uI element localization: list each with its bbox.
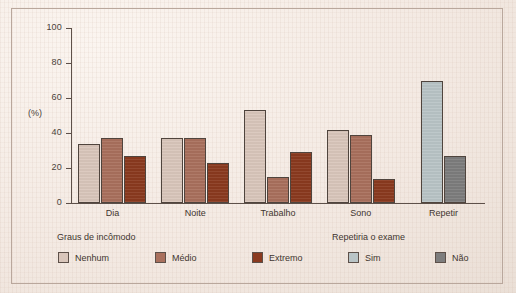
legend-swatch-extremo xyxy=(252,252,263,263)
bar-noite-médio xyxy=(184,138,206,203)
category-label-trabalho: Trabalho xyxy=(260,208,295,218)
bar-sono-médio xyxy=(350,135,372,203)
legend-label: Não xyxy=(452,253,469,263)
legend-graus-item-nenhum[interactable]: Nenhum xyxy=(58,252,109,263)
legend-left-title: Graus de incômodo xyxy=(57,232,136,242)
bar-dia-nenhum xyxy=(78,144,100,204)
bar-trabalho-médio xyxy=(267,177,289,203)
legend-label: Nenhum xyxy=(75,253,109,263)
category-label-dia: Dia xyxy=(106,208,120,218)
category-label-repetir: Repetir xyxy=(429,208,458,218)
legend-repetiria-item-não[interactable]: Não xyxy=(435,252,469,263)
chart-figure: (%) 100806040200 DiaNoiteTrabalhoSonoRep… xyxy=(0,0,516,293)
legend-swatch-não xyxy=(435,252,446,263)
bar-repetir-não xyxy=(444,156,466,203)
y-tick-mark xyxy=(66,168,71,169)
y-tick-mark xyxy=(66,63,71,64)
bar-trabalho-extremo xyxy=(290,152,312,203)
bar-noite-nenhum xyxy=(161,138,183,203)
legend-swatch-sim xyxy=(348,252,359,263)
legend-graus-item-extremo[interactable]: Extremo xyxy=(252,252,303,263)
bar-dia-extremo xyxy=(124,156,146,203)
legend-swatch-nenhum xyxy=(58,252,69,263)
legend-label: Extremo xyxy=(269,253,303,263)
bar-repetir-sim xyxy=(421,81,443,204)
legend-repetiria-item-sim[interactable]: Sim xyxy=(348,252,381,263)
bar-dia-médio xyxy=(101,138,123,203)
legend-graus-item-médio[interactable]: Médio xyxy=(155,252,197,263)
legend-label: Sim xyxy=(365,253,381,263)
y-tick-mark xyxy=(66,133,71,134)
y-tick-label: 0 xyxy=(40,197,62,207)
y-tick-mark xyxy=(66,28,71,29)
category-label-sono: Sono xyxy=(350,208,371,218)
category-label-noite: Noite xyxy=(185,208,206,218)
legend-label: Médio xyxy=(172,253,197,263)
bar-trabalho-nenhum xyxy=(244,110,266,203)
y-tick-label: 40 xyxy=(40,127,62,137)
y-axis-line xyxy=(71,28,72,204)
y-tick-label: 20 xyxy=(40,162,62,172)
legend-swatch-médio xyxy=(155,252,166,263)
y-tick-label: 100 xyxy=(40,22,62,32)
bar-sono-extremo xyxy=(373,179,395,204)
y-tick-label: 60 xyxy=(40,92,62,102)
y-tick-label: 80 xyxy=(40,57,62,67)
y-tick-mark xyxy=(66,203,71,204)
y-tick-mark xyxy=(66,98,71,99)
y-axis-title: (%) xyxy=(28,108,42,118)
bar-sono-nenhum xyxy=(327,130,349,204)
legend-right-title: Repetiria o exame xyxy=(332,232,405,242)
bar-noite-extremo xyxy=(207,163,229,203)
x-axis-line xyxy=(71,203,485,204)
